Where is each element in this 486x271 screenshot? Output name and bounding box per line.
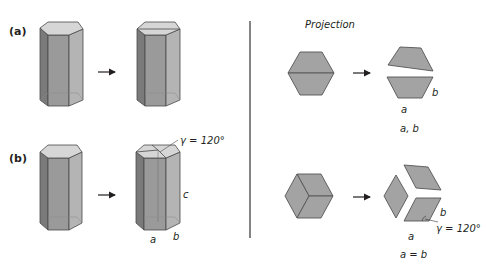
projection-title: Projection	[305, 19, 355, 30]
b-label-bottom-projection: b	[440, 207, 446, 218]
hexagonal-prism-b-left	[40, 145, 82, 230]
exploded-projection-top	[387, 47, 433, 98]
rhombus-left	[384, 175, 408, 218]
caption-top-projection: a, b	[400, 123, 419, 134]
hexagon-projection-bottom	[285, 174, 333, 218]
gamma-label-prism: γ = 120°	[180, 135, 225, 146]
rhombus-top-right	[404, 165, 441, 190]
exploded-projection-bottom	[384, 165, 441, 222]
a-axis-label-prism: a	[150, 234, 156, 245]
crystal-lattice-diagram: (a) (b) γ =	[0, 0, 486, 271]
caption-bottom-projection: a = b	[400, 249, 427, 260]
hexagon-projection-top	[288, 52, 334, 95]
rhombus-bottom-right	[404, 198, 441, 221]
panel-label-b: (b)	[9, 152, 27, 165]
hexagonal-prism-b-right	[136, 140, 180, 230]
b-axis-label-prism: b	[173, 231, 179, 242]
a-label-top-projection: a	[401, 104, 407, 115]
a-label-bottom-projection: a	[408, 231, 414, 242]
b-label-top-projection: b	[432, 87, 438, 98]
hexagonal-prism-a-left	[40, 22, 83, 106]
gamma-label-bottom-projection: γ = 120°	[436, 223, 481, 234]
hexagonal-prism-a-right	[137, 22, 180, 106]
c-axis-label: c	[183, 189, 189, 200]
panel-label-a: (a)	[9, 25, 26, 38]
